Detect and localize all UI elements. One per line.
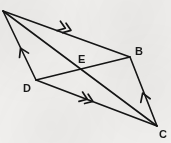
- geometry-figure: B C D E: [0, 0, 171, 143]
- vertex-label-C: C: [159, 129, 167, 140]
- double-arrow-mark-DC: [79, 92, 95, 106]
- diagram-canvas: [0, 0, 171, 143]
- vertex-label-E: E: [78, 54, 85, 65]
- segment-side-DC: [36, 80, 157, 126]
- vertex-label-B: B: [135, 46, 143, 57]
- vertex-label-D: D: [23, 83, 31, 94]
